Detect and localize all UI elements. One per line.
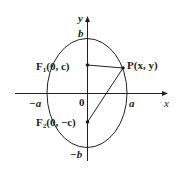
vertex-b-label: b [78, 27, 84, 39]
y-axis-label: y [76, 12, 83, 24]
vertex-neg-b-label: −b [70, 148, 83, 160]
ellipse-diagram: y x 0 b −b a −a F1(0, c) F2(0, −c) P(x, … [0, 0, 183, 170]
vertex-neg-a-label: −a [29, 97, 42, 109]
segment-f2-p [88, 68, 124, 122]
x-axis-label: x [163, 97, 169, 109]
vertex-a-label: a [129, 97, 135, 109]
point-p-label: P(x, y) [127, 59, 158, 72]
point-p [121, 66, 125, 70]
focus-f2-coords: (0, −c) [46, 116, 76, 129]
focus-f2-point [86, 120, 90, 124]
point-p-coords: (x, y) [134, 59, 158, 72]
focus-f1-point [86, 63, 90, 67]
focus-f1-label: F1(0, c) [36, 60, 70, 74]
origin-label: 0 [79, 96, 85, 108]
segment-f1-p [88, 65, 124, 68]
focus-f1-coords: (0, c) [46, 60, 70, 73]
focus-f2-label: F2(0, −c) [36, 116, 76, 130]
